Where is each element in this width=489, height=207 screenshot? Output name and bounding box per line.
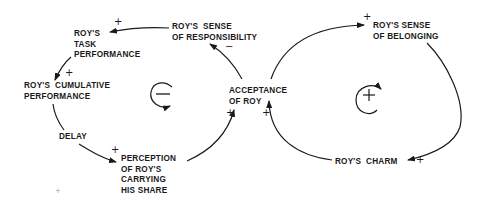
polarity-responsibility-to-task: + — [114, 17, 122, 27]
node-delay: DELAY — [59, 132, 87, 143]
polarity-delay-to-perception: + — [111, 145, 119, 155]
polarity-acceptance-to-belonging: + — [363, 12, 371, 22]
balancing-loop-icon — [151, 83, 172, 107]
node-charm: ROY'S CHARM — [335, 157, 398, 168]
arrow-cumulative-to-delay — [53, 104, 64, 130]
polarity-charm-to-acceptance: + — [262, 108, 270, 118]
arrow-charm-to-acceptance — [269, 101, 332, 160]
node-acceptance: ACCEPTANCE OF ROY — [229, 86, 287, 107]
polarity-task-to-cumulative: + — [65, 68, 73, 78]
arrow-belonging-to-charm — [408, 43, 461, 160]
polarity-acceptance-to-responsibility: − — [225, 42, 233, 52]
node-cumulative-performance: ROY'S CUMULATIVE PERFORMANCE — [24, 81, 110, 102]
node-task-performance: ROY'S TASK PERFORMANCE — [74, 29, 140, 61]
polarity-belonging-to-charm: + — [416, 155, 424, 165]
node-sense-of-belonging: ROY'S SENSE OF BELONGING — [373, 21, 439, 42]
node-sense-of-responsibility: ROY'S SENSE OF RESPONSIBILITY — [172, 22, 257, 43]
loop-plus-sign — [363, 89, 375, 101]
node-perception: PERCEPTION OF ROY'S CARRYING HIS SHARE — [121, 154, 176, 196]
polarity-perception-to-acceptance: + — [226, 108, 234, 118]
arrow-acceptance-to-belonging — [271, 25, 364, 79]
stray-plus-mark: + — [55, 186, 61, 196]
